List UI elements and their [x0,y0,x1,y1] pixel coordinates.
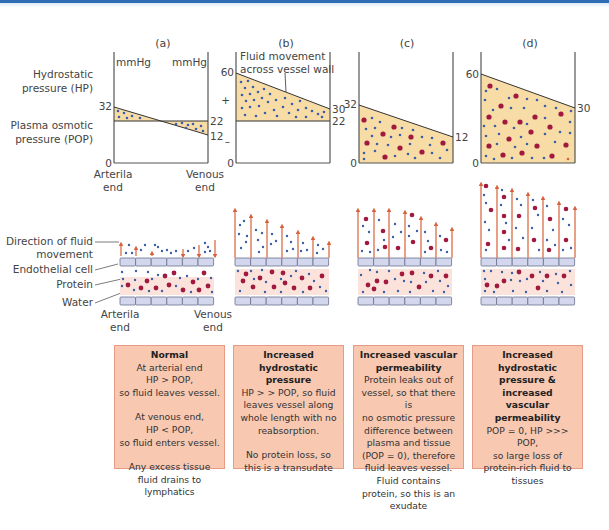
box-text: Any excess tissue fluid drains to lympha… [118,461,221,499]
panel-label-d: (d) [522,37,538,50]
vessel-d [481,184,575,305]
svg-text:pressure (HP): pressure (HP) [22,82,93,94]
box-title: Increased hydrostatic pressure [237,349,340,387]
box-text: POP = 0, HP >>> POP, so large loss of pr… [476,425,579,488]
svg-text:movement: movement [36,248,93,260]
vessel-c [358,210,452,305]
tick-30: 30 [577,102,590,114]
svg-text:end: end [103,181,123,193]
pop-label: Plasma osmotic pressure (POP) [10,119,93,145]
minus-sign: – [225,135,230,147]
tick-12: 12 [455,131,468,143]
vessel-a-venous-label: Venous [194,308,232,320]
chart-d: 60 0 30 [466,52,591,169]
tick-60: 60 [221,66,234,78]
protein-label: Protein [56,278,93,290]
fluid-movement-annotation: Fluid movement [240,50,325,62]
box-text: HP > > POP, so fluid leaves vessel along… [237,387,340,437]
hp-label: Hydrostatic pressure (HP) [22,68,93,94]
vessel-a: Arterila end Venous end [101,240,232,333]
vessel-b [235,210,329,305]
svg-text:end: end [195,181,215,193]
unit-right: mmHg [172,56,207,68]
panel-label-c: (c) [400,37,415,50]
tick-32: 32 [344,98,357,110]
tick-12: 12 [210,130,223,142]
box-normal: Normal At arterial end HP > POP, so flui… [114,345,225,469]
box-text: At arterial end HP > POP, so fluid leave… [118,362,221,400]
svg-text:Plasma osmotic: Plasma osmotic [10,119,93,131]
svg-text:Hydrostatic: Hydrostatic [33,68,93,80]
vessel-a-arterial-label: Arterila [101,308,140,320]
unit-left: mmHg [116,56,151,68]
svg-text:across vessel wall: across vessel wall [240,63,334,75]
panel-label-b: (b) [278,37,294,50]
tick-32: 32 [99,100,112,112]
chart-b: Fluid movement across vessel wall 60 + –… [221,50,346,169]
tick-0: 0 [227,157,234,169]
panel-label-a: (a) [155,37,170,50]
box-increased-vascular-permeability: Increased vascular permeability Protein … [353,345,464,469]
box-text: No protein loss, so this is a transudate [237,449,340,474]
box-increased-hp-and-permeability: Increased hydrostatic pressure & increas… [472,345,583,469]
box-title: Increased hydrostatic pressure & increas… [476,349,579,425]
box-increased-hydrostatic-pressure: Increased hydrostatic pressure HP > > PO… [233,345,344,469]
water-label: Water [62,296,94,308]
box-text: Protein leaks out of vessel, so that the… [357,374,460,513]
x-label-venous: Venous [186,168,224,180]
direction-label: Direction of fluid [6,235,93,247]
vessel-legend: Direction of fluid movement Endothelial … [6,235,94,308]
tick-60: 60 [466,68,479,80]
tick-0: 0 [350,157,357,169]
tick-0: 0 [472,157,479,169]
svg-text:pressure (POP): pressure (POP) [15,133,93,145]
box-title: Normal [118,349,221,362]
endothelial-label: Endothelial cell [13,263,93,275]
box-title: Increased vascular permeability [357,349,460,374]
chart-c: 32 0 12 [344,52,469,169]
chart-a: mmHg mmHg 32 0 22 12 Arterila end Venous… [94,52,224,193]
svg-text:end: end [203,321,223,333]
plus-sign: + [221,94,230,106]
x-label-arterial: Arterila [94,168,133,180]
tick-22: 22 [332,115,345,127]
svg-text:end: end [110,321,130,333]
box-text: At venous end, HP < POP, so fluid enters… [118,411,221,449]
tick-22: 22 [210,115,223,127]
